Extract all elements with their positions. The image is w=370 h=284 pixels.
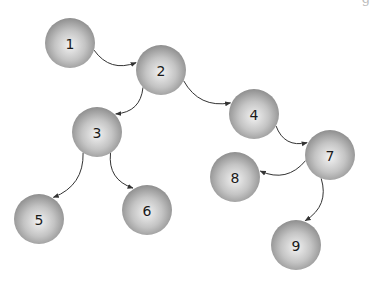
diagram-canvas: 123456789 [0,0,370,284]
tree-diagram: g 123456789 [0,0,370,284]
node-6: 6 [122,185,172,235]
node-1: 1 [45,18,95,68]
node-label: 2 [157,63,166,79]
edge-3-to-5 [53,153,83,198]
node-5: 5 [14,194,64,244]
node-7: 7 [305,130,355,180]
node-label: 8 [231,170,240,186]
nodes-layer: 123456789 [14,18,355,270]
node-label: 5 [35,212,44,228]
edge-2-to-3 [116,87,143,114]
edge-3-to-6 [110,153,133,188]
edge-7-to-9 [305,178,323,220]
node-3: 3 [72,107,122,157]
node-label: 1 [66,36,75,52]
node-label: 3 [93,125,102,141]
node-label: 4 [250,107,259,123]
edge-1-to-2 [94,50,136,66]
edge-4-to-7 [276,126,307,144]
node-label: 9 [292,238,301,254]
node-8: 8 [210,152,260,202]
node-2: 2 [136,45,186,95]
node-label: 7 [326,148,335,164]
node-4: 4 [229,89,279,139]
node-label: 6 [143,203,152,219]
edge-2-to-4 [184,81,231,104]
edge-7-to-8 [260,161,305,176]
node-9: 9 [271,220,321,270]
